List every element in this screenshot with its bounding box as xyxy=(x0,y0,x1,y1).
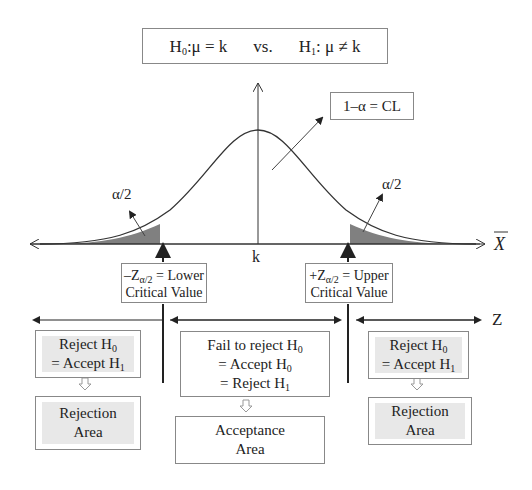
left-decision-box: Reject H0 = Accept H1 xyxy=(35,330,141,378)
right-tail-area xyxy=(350,224,450,244)
alt-hypothesis: H1: μ ≠ k xyxy=(299,37,361,56)
cl-pointer xyxy=(272,118,322,170)
left-alpha-label: α/2 xyxy=(112,186,132,203)
acceptance-area-box: Acceptance Area xyxy=(175,416,325,464)
confidence-level-label: 1–α = CL xyxy=(343,97,401,116)
right-rejection-area-box: Rejection Area xyxy=(368,397,472,445)
vs-label: vs. xyxy=(253,37,272,56)
lower-critical-box: –Zα/2 = Lower Critical Value xyxy=(121,263,207,303)
left-tail-pointer xyxy=(130,212,145,236)
hypothesis-box: H0:μ = k vs. H1: μ ≠ k xyxy=(142,28,388,64)
left-rejection-area-box: Rejection Area xyxy=(35,396,141,450)
null-hypothesis: H0:μ = k xyxy=(170,37,228,56)
middle-decision-box: Fail to reject H0 = Accept H0 = Reject H… xyxy=(180,331,330,397)
upper-critical-box: +Zα/2 = Upper Critical Value xyxy=(305,263,393,303)
center-k-label: k xyxy=(252,248,260,266)
right-alpha-label: α/2 xyxy=(382,176,402,193)
x-bar-label: X xyxy=(494,234,505,255)
right-decision-box: Reject H0 = Accept H1 xyxy=(368,331,469,379)
left-tail-area xyxy=(60,224,160,244)
confidence-level-box: 1–α = CL xyxy=(330,92,414,120)
z-axis-label: Z xyxy=(492,310,502,330)
